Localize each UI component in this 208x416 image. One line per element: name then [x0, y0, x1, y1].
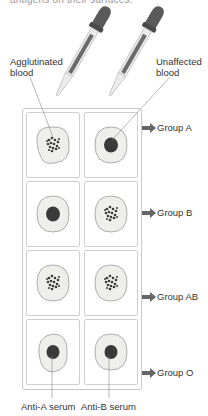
anti-a-serum-label: Anti-A serum: [21, 401, 75, 412]
arrow-right-icon: [142, 123, 156, 133]
group-a-label: Group A: [142, 122, 192, 133]
group-ab-label: Group AB: [142, 291, 198, 302]
group-b-label: Group B: [142, 207, 192, 218]
arrow-right-icon: [142, 292, 156, 302]
anti-b-serum-label: Anti-B serum: [81, 401, 136, 412]
arrow-right-icon: [142, 368, 156, 378]
group-o-label: Group O: [142, 367, 193, 378]
arrow-right-icon: [142, 208, 156, 218]
